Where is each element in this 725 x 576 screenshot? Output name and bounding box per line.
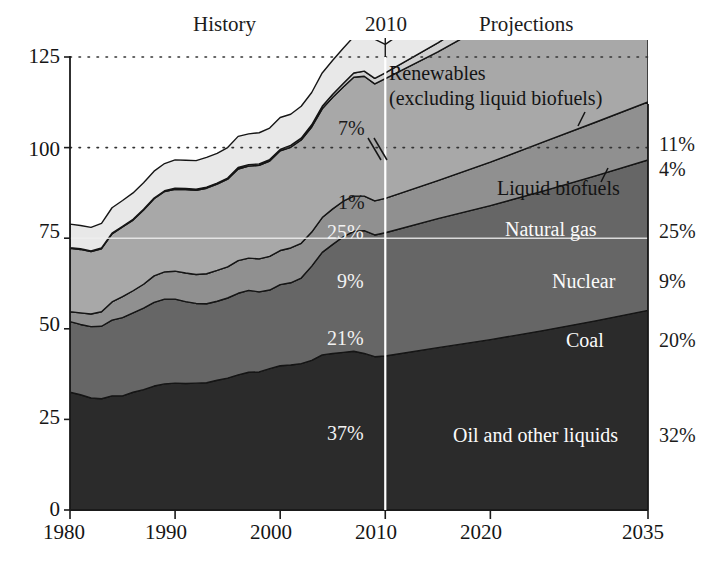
x-tick-1990: 1990 [145, 522, 187, 543]
period-label-year-divider: 2010 [365, 14, 407, 35]
y-tick-50: 50 [12, 314, 60, 335]
pct-2010-renewables: 7% [338, 118, 365, 138]
period-label-projections: Projections [479, 14, 574, 35]
pct-2010-nuclear: 9% [337, 271, 364, 291]
pct-2035-renewables: 11% [659, 134, 695, 154]
pct-2035-coal: 20% [659, 330, 696, 350]
pct-2035-natural-gas: 25% [659, 221, 696, 241]
pct-2010-oil: 37% [327, 423, 364, 443]
y-tick-125: 125 [12, 46, 60, 67]
callout-renewables-line1: Renewables [389, 63, 486, 83]
chart-container: History 2010 Projections 125 100 75 50 2… [0, 0, 725, 576]
pct-2010-coal: 21% [327, 328, 364, 348]
y-tick-100: 100 [12, 139, 60, 160]
x-tick-1980: 1980 [43, 522, 85, 543]
pct-2035-oil: 32% [659, 425, 696, 445]
x-tick-2035: 2035 [622, 522, 664, 543]
series-label-coal: Coal [566, 330, 604, 350]
pct-2035-nuclear: 9% [659, 271, 686, 291]
series-label-oil: Oil and other liquids [453, 425, 618, 445]
y-tick-25: 25 [12, 407, 60, 428]
period-label-history: History [193, 14, 256, 35]
callout-liquid-biofuels: Liquid biofuels [497, 178, 620, 198]
pct-2035-biofuels: 4% [659, 159, 686, 179]
y-tick-75: 75 [12, 221, 60, 242]
callout-renewables-line2: (excluding liquid biofuels) [389, 88, 602, 108]
pct-2010-biofuels: 1% [338, 192, 365, 212]
y-tick-0: 0 [12, 499, 60, 520]
series-label-natural-gas: Natural gas [505, 219, 597, 239]
x-tick-2020: 2020 [460, 522, 502, 543]
pct-2010-natural-gas: 25% [327, 222, 364, 242]
series-label-nuclear: Nuclear [552, 271, 615, 291]
x-tick-2000: 2000 [250, 522, 292, 543]
x-tick-2010: 2010 [355, 522, 397, 543]
